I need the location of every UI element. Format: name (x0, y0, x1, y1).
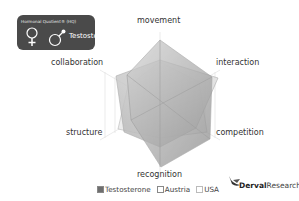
axis-label-recognition: recognition (137, 170, 182, 179)
axis-label-structure: structure (66, 128, 102, 137)
legend-swatch (196, 186, 203, 193)
legend-swatch (157, 186, 164, 193)
legend-swatch (97, 186, 104, 193)
male-symbol-icon (47, 28, 67, 48)
badge-title: Hormonal Quotient® (HQ) (21, 19, 76, 24)
chart-legend: Testosterone Austria USA (97, 185, 219, 194)
hormonal-quotient-badge: Hormonal Quotient® (HQ) Testosterone (17, 15, 95, 50)
logo-text: DervalResearch (239, 181, 299, 190)
axis-label-interaction: interaction (216, 58, 259, 67)
legend-item-testosterone: Testosterone (97, 185, 151, 194)
axis-label-movement: movement (137, 16, 180, 25)
legend-item-usa: USA (196, 185, 219, 194)
axis-label-competition: competition (216, 128, 264, 137)
series-testosterone (127, 40, 212, 167)
badge-label: Testosterone (69, 32, 114, 40)
female-symbol-icon (25, 27, 39, 47)
legend-item-austria: Austria (157, 185, 190, 194)
axis-label-collaboration: collaboration (51, 58, 103, 67)
